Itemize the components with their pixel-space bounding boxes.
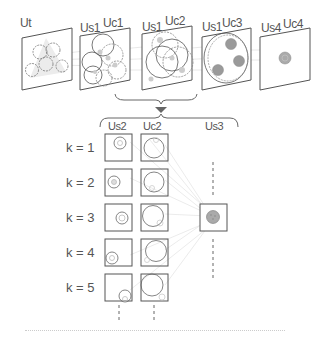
column-uc2-circles xyxy=(141,138,167,301)
row-label-k3: k = 3 xyxy=(66,210,95,225)
continuation-lines xyxy=(119,305,154,320)
column-uc2 xyxy=(141,134,168,301)
panel-us4-uc4 xyxy=(260,28,310,90)
column-us2-circles xyxy=(106,137,131,302)
header-uc2: Uc2 xyxy=(143,120,161,132)
label-ut: Ut xyxy=(20,16,31,30)
column-us3 xyxy=(200,162,227,280)
header-us2: Us2 xyxy=(108,120,126,132)
row-label-k2: k = 2 xyxy=(66,175,95,190)
panel-us1-uc1 xyxy=(80,28,130,90)
label-uc2: Uc2 xyxy=(165,14,185,28)
row-label-k5: k = 5 xyxy=(66,280,95,295)
diagram-canvas xyxy=(0,0,325,338)
label-us4: Us4 xyxy=(261,21,281,35)
label-us1-a: Us1 xyxy=(80,21,100,35)
header-us3: Us3 xyxy=(205,120,223,132)
label-us1-b: Us1 xyxy=(142,20,162,34)
panel-us1-uc3 xyxy=(202,28,251,90)
down-arrow-icon xyxy=(155,107,167,113)
label-uc3: Uc3 xyxy=(222,16,242,30)
panel-us1-uc2 xyxy=(142,26,193,90)
label-uc1: Uc1 xyxy=(103,16,123,30)
panel-ut xyxy=(22,28,72,90)
row-label-k1: k = 1 xyxy=(66,140,95,155)
label-us1-c: Us1 xyxy=(202,20,222,34)
brace-top xyxy=(115,94,197,104)
label-uc4: Uc4 xyxy=(283,17,303,31)
faint-caption-line xyxy=(25,330,285,334)
row-label-k4: k = 4 xyxy=(66,245,95,260)
connection-lines-grid xyxy=(130,140,210,290)
